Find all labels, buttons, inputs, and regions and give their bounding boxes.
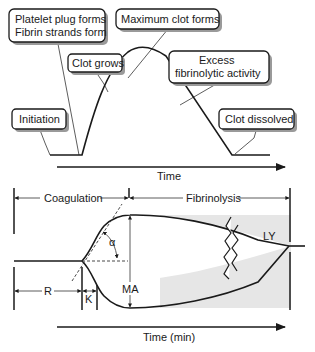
callout-max-clot: Maximum clot forms <box>116 9 222 32</box>
svg-text:Fibrin strands form: Fibrin strands form <box>15 26 107 38</box>
callout-initiation: Initiation <box>12 109 69 132</box>
ly-label: LY <box>263 230 276 242</box>
top-panel: Time Platelet plug forms Fibrin strands … <box>9 9 297 182</box>
hemostasis-diagram: Time Platelet plug forms Fibrin strands … <box>0 0 315 352</box>
svg-text:Initiation: Initiation <box>19 113 60 125</box>
alpha-label: α <box>109 236 116 248</box>
callout-clot-grows: Clot grows <box>68 54 125 75</box>
svg-text:fibrinolytic activity: fibrinolytic activity <box>175 67 261 79</box>
callout-platelet: Platelet plug forms Fibrin strands form <box>9 9 108 45</box>
svg-text:Clot dissolved: Clot dissolved <box>225 113 293 125</box>
fibrinolysis-label: Fibrinolysis <box>186 192 242 204</box>
callout-clot-dissolved: Clot dissolved <box>219 109 297 132</box>
time-label-top: Time <box>157 170 181 182</box>
svg-text:Excess: Excess <box>199 54 235 66</box>
ma-label: MA <box>122 283 139 295</box>
leader-dissolved <box>235 131 256 154</box>
callout-excess-fibrinolytic: Excess fibrinolytic activity <box>169 51 272 86</box>
k-label: K <box>85 293 93 305</box>
leader-initiation <box>40 130 50 155</box>
r-label: R <box>44 285 52 297</box>
bottom-panel: Coagulation Fibrinolysis α MA LY R K <box>14 188 305 343</box>
time-min-label: Time (min) <box>143 331 195 343</box>
svg-text:Clot grows: Clot grows <box>72 57 124 69</box>
coagulation-label: Coagulation <box>44 192 103 204</box>
svg-text:Maximum clot forms: Maximum clot forms <box>121 13 220 25</box>
svg-text:Platelet plug forms: Platelet plug forms <box>15 13 107 25</box>
